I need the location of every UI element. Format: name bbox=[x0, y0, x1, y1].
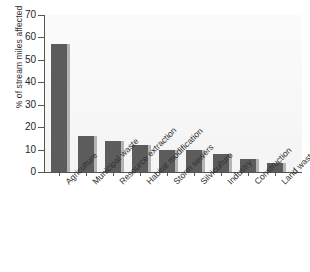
x-tick-label: Agriculture bbox=[64, 180, 70, 186]
bar-chart: % of stream miles affected 0102030405060… bbox=[0, 0, 310, 272]
y-tick-label-wrap: 0 bbox=[0, 167, 36, 177]
y-tick-label-wrap: 70 bbox=[0, 10, 36, 20]
x-tick-mark bbox=[194, 172, 195, 176]
y-tick-label: 10 bbox=[2, 145, 36, 155]
x-tick-label: Construction bbox=[253, 180, 259, 186]
x-tick-label: Industry bbox=[226, 180, 232, 186]
bar-slot bbox=[74, 15, 101, 172]
x-tick-label: Habitat modification bbox=[145, 180, 151, 186]
x-tick-mark bbox=[221, 172, 222, 176]
bar-slot bbox=[47, 15, 74, 172]
y-tick-label-wrap: 50 bbox=[0, 55, 36, 65]
x-tick-mark bbox=[59, 172, 60, 176]
bar-slot bbox=[236, 15, 263, 172]
x-tick-label: Land waste disposal bbox=[280, 180, 286, 186]
y-tick-label-wrap: 60 bbox=[0, 32, 36, 42]
x-tick-mark bbox=[86, 172, 87, 176]
x-tick-mark bbox=[275, 172, 276, 176]
y-tick-label-wrap: 10 bbox=[0, 145, 36, 155]
y-tick-label: 30 bbox=[2, 100, 36, 110]
y-tick-label: 0 bbox=[2, 167, 36, 177]
y-tick-label: 50 bbox=[2, 55, 36, 65]
y-tick-label: 20 bbox=[2, 122, 36, 132]
x-tick-mark bbox=[113, 172, 114, 176]
x-tick-mark bbox=[167, 172, 168, 176]
y-tick-label: 60 bbox=[2, 32, 36, 42]
y-tick-label: 70 bbox=[2, 10, 36, 20]
y-tick-label-wrap: 30 bbox=[0, 100, 36, 110]
x-tick-label: Silviculture bbox=[199, 180, 205, 186]
x-tick-mark bbox=[248, 172, 249, 176]
y-tick-mark bbox=[38, 172, 44, 173]
x-tick-label: Municipal waste bbox=[91, 180, 97, 186]
x-tick-label: Storm sewers bbox=[172, 180, 178, 186]
y-tick-label-wrap: 20 bbox=[0, 122, 36, 132]
bar-series bbox=[44, 15, 302, 172]
y-tick-label-wrap: 40 bbox=[0, 77, 36, 87]
y-tick-label: 40 bbox=[2, 77, 36, 87]
x-tick-mark bbox=[140, 172, 141, 176]
x-tick-label: Resource extraction bbox=[118, 180, 124, 186]
bar[interactable] bbox=[51, 44, 67, 172]
